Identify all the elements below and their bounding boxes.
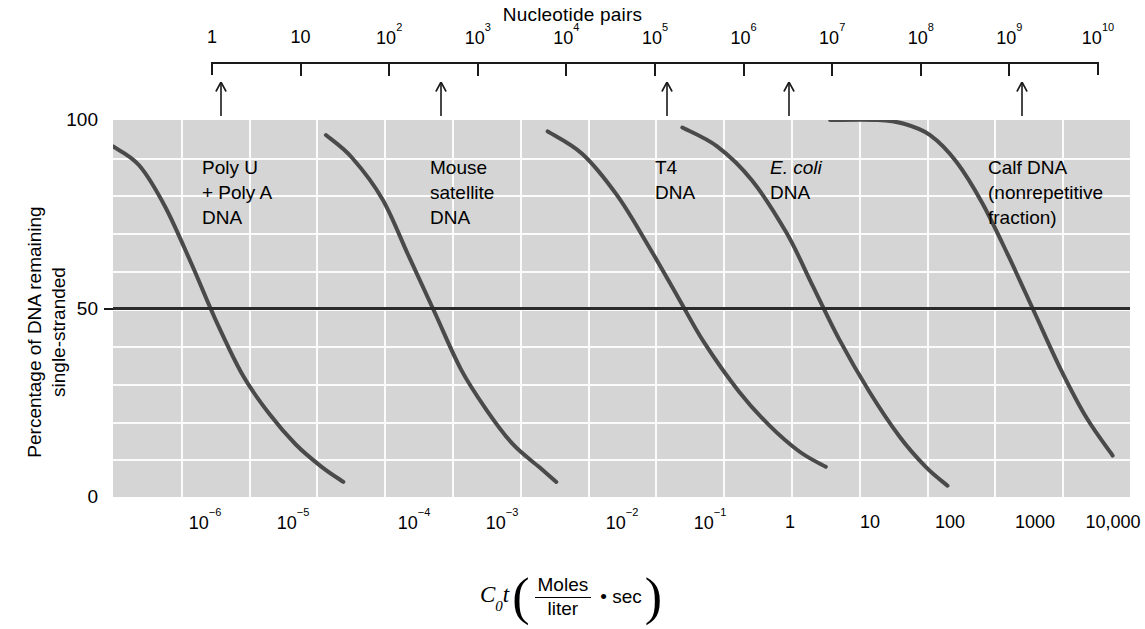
x-axis-tick-label: 100 — [935, 512, 965, 533]
x-axis-tick-label: 1 — [785, 512, 795, 533]
top-axis-tick-label: 103 — [465, 27, 491, 49]
y-axis-tick-label: 50 — [40, 298, 98, 320]
top-axis-tick — [388, 63, 390, 76]
fraction-denominator: liter — [545, 598, 582, 620]
top-axis-tick-label: 109 — [996, 27, 1022, 49]
x-axis-tick-label: 10−5 — [277, 512, 310, 534]
top-axis-tick — [920, 63, 922, 76]
top-axis-tick-label: 105 — [642, 27, 668, 49]
top-axis-tick — [1097, 62, 1099, 75]
left-paren: ( — [512, 576, 529, 618]
top-axis-tick-label: 10 — [291, 27, 311, 48]
x-axis-tick-label: 1000 — [1015, 512, 1055, 533]
top-axis-tick — [654, 63, 656, 76]
x-axis-tick-label: 10−6 — [189, 512, 222, 534]
top-axis-tick — [1008, 63, 1010, 76]
arrow-calf-dna — [1015, 82, 1029, 116]
cot-curve-figure: Nucleotide pairs 11010210310410510610710… — [0, 0, 1145, 629]
x-axis-title-c0t: C0t — [480, 582, 509, 612]
top-axis-tick — [211, 62, 213, 75]
units-tail: • sec — [600, 586, 642, 608]
annotation-mouse-satellite: Mouse satellite DNA — [430, 155, 494, 230]
x-axis-title: C0t ( Moles liter • sec ) — [0, 575, 1145, 619]
y-axis-title-line1: Percentage of DNA remaining — [24, 206, 45, 457]
top-axis-tick-label: 1 — [207, 27, 217, 48]
top-axis-tick-label: 102 — [376, 27, 402, 49]
y-axis-tick-label: 100 — [40, 109, 98, 131]
top-axis-tick — [743, 63, 745, 76]
y-axis-tick-label: 0 — [40, 486, 98, 508]
nucleotide-pairs-axis: 1101021031041051061071081091010 — [0, 0, 1145, 120]
arrow-poly-u-poly-a — [214, 82, 228, 116]
x-axis-tick-label: 10,000 — [1085, 512, 1140, 533]
annotation-e-coli-dna: E. coli DNA — [770, 155, 822, 205]
annotation-t4-dna: T4 DNA — [655, 155, 695, 205]
y-axis-title-line2: single-stranded — [48, 267, 69, 397]
annotation-calf-dna: Calf DNA (nonrepetitive fraction) — [988, 155, 1103, 230]
fraction-numerator: Moles — [535, 575, 592, 598]
x-axis-tick-label: 10−2 — [606, 512, 639, 534]
arrow-mouse-satellite — [434, 82, 448, 116]
annotation-poly-u-poly-a: Poly U + Poly A DNA — [202, 155, 272, 230]
top-axis-tick — [565, 63, 567, 76]
top-axis-tick-label: 104 — [553, 27, 579, 49]
y-axis-tick — [104, 308, 113, 310]
top-axis-tick-label: 107 — [819, 27, 845, 49]
top-axis-tick — [300, 63, 302, 76]
x-axis-tick-label: 10−4 — [398, 512, 431, 534]
top-axis-tick — [477, 63, 479, 76]
y-axis-title: Percentage of DNA remaining single-stran… — [23, 167, 71, 497]
arrow-e-coli-dna — [782, 82, 796, 116]
x-axis-tick-label: 10 — [860, 512, 880, 533]
units-fraction: Moles liter — [535, 575, 592, 619]
x-axis-tick-label: 10−3 — [486, 512, 519, 534]
top-axis-tick-label: 106 — [731, 27, 757, 49]
top-axis-tick — [831, 63, 833, 76]
top-axis-tick-label: 1010 — [1082, 27, 1114, 49]
top-axis-tick-label: 108 — [908, 27, 934, 49]
arrow-t4-dna — [660, 82, 674, 116]
right-paren: ) — [645, 576, 662, 618]
x-axis-tick-label: 10−1 — [694, 512, 727, 534]
